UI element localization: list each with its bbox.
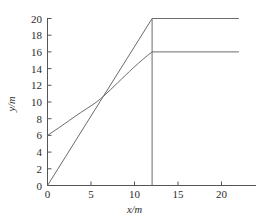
chart-figure: 0 2 4 6 8 10 12 14 16 18 20 0 5 10 15 20 bbox=[0, 0, 264, 223]
y-axis-ticks bbox=[48, 19, 52, 186]
x-tick-label-0: 0 bbox=[45, 188, 51, 200]
line-chart: 0 2 4 6 8 10 12 14 16 18 20 0 5 10 15 20 bbox=[0, 0, 264, 223]
data-series-group bbox=[48, 19, 239, 186]
axis-titles: x/m y/m bbox=[6, 96, 142, 215]
y-tick-label-20: 20 bbox=[31, 13, 43, 25]
series-concave-curve bbox=[48, 52, 239, 135]
y-axis-tick-labels: 0 2 4 6 8 10 12 14 16 18 20 bbox=[31, 13, 43, 192]
x-tick-label-20: 20 bbox=[216, 188, 228, 200]
x-axis-tick-labels: 0 5 10 15 20 bbox=[45, 188, 228, 200]
x-tick-label-10: 10 bbox=[129, 188, 141, 200]
y-tick-label-12: 12 bbox=[31, 79, 42, 91]
y-tick-label-10: 10 bbox=[31, 96, 43, 108]
x-axis-ticks bbox=[48, 182, 222, 186]
y-axis-title: y/m bbox=[6, 96, 17, 113]
y-tick-label-16: 16 bbox=[31, 46, 43, 58]
x-tick-label-5: 5 bbox=[88, 188, 94, 200]
y-tick-label-0: 0 bbox=[37, 180, 43, 192]
y-tick-label-18: 18 bbox=[31, 29, 43, 41]
y-tick-label-14: 14 bbox=[31, 63, 43, 75]
y-tick-label-6: 6 bbox=[37, 129, 43, 141]
y-tick-label-4: 4 bbox=[37, 146, 43, 158]
series-straight-line bbox=[48, 19, 239, 186]
x-tick-label-15: 15 bbox=[173, 188, 185, 200]
y-tick-label-8: 8 bbox=[37, 113, 43, 125]
y-tick-label-2: 2 bbox=[37, 163, 43, 175]
x-axis-title: x/m bbox=[126, 204, 143, 215]
